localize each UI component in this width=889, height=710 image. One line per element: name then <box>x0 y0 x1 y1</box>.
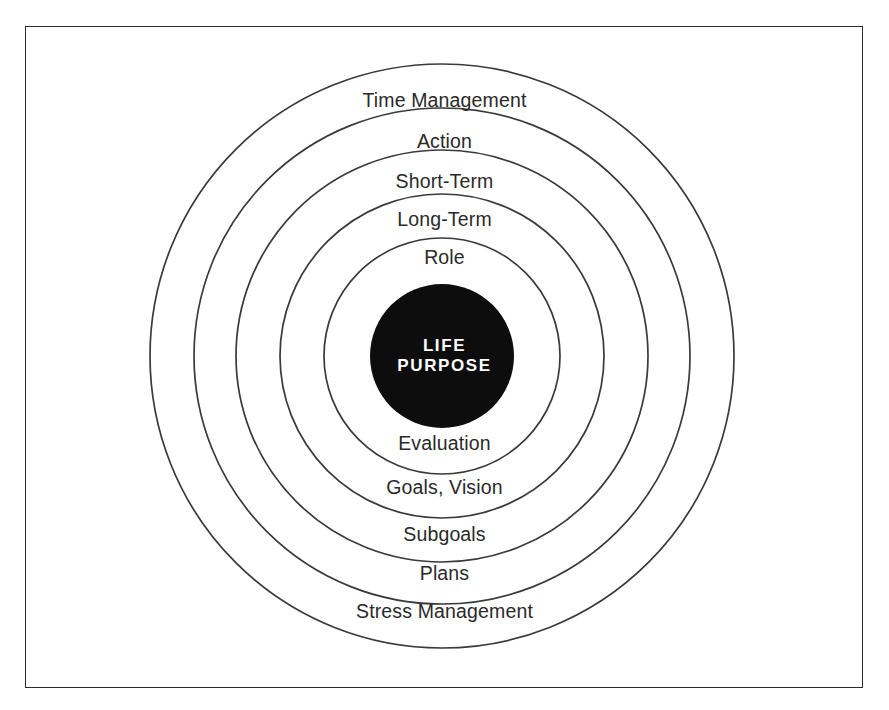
label-stress-management: Stress Management <box>0 602 889 622</box>
label-evaluation: Evaluation <box>0 434 889 454</box>
label-life-purpose-line1: LIFE <box>0 336 889 356</box>
label-role: Role <box>0 248 889 268</box>
label-subgoals: Subgoals <box>0 525 889 545</box>
label-action: Action <box>0 132 889 152</box>
label-time-management: Time Management <box>0 91 889 111</box>
label-plans: Plans <box>0 564 889 584</box>
label-short-term: Short-Term <box>0 172 889 192</box>
label-goals-vision: Goals, Vision <box>0 478 889 498</box>
label-life-purpose: LIFE PURPOSE <box>0 336 889 376</box>
label-long-term: Long-Term <box>0 210 889 230</box>
figure-root: Time Management Action Short-Term Long-T… <box>0 0 889 710</box>
label-life-purpose-line2: PURPOSE <box>0 356 889 376</box>
